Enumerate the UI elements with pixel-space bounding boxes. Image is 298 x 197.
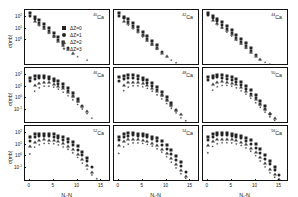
star-marker <box>47 142 50 145</box>
y-axis-tick-mark <box>24 28 26 29</box>
y-axis-tick-label: 101 <box>8 140 22 147</box>
star-marker <box>127 86 130 89</box>
triangle-marker <box>244 89 248 92</box>
circle-marker <box>225 134 228 137</box>
triangle-marker <box>122 140 126 143</box>
star-marker <box>90 174 93 177</box>
y-axis-tick-label: 101 <box>8 24 22 31</box>
y-axis-label: σ(mb) <box>7 35 13 48</box>
square-marker <box>62 26 66 30</box>
star-marker <box>141 142 144 145</box>
circle-marker <box>67 140 70 143</box>
plot-panel-52Ca: 52Ca <box>24 125 110 181</box>
y-axis-tick-mark <box>24 132 26 133</box>
star-marker <box>179 172 182 175</box>
star-marker <box>86 59 89 62</box>
circle-marker <box>160 143 163 146</box>
circle-marker <box>221 134 224 137</box>
x-axis-tick-label: 15 <box>187 183 192 188</box>
circle-marker <box>43 134 46 137</box>
x-axis-tick-mark <box>231 179 232 181</box>
panel-isotope-label: 50Ca <box>271 71 282 78</box>
triangle-marker <box>126 81 130 84</box>
x-axis-tick-mark <box>278 179 279 181</box>
triangle-marker <box>80 158 84 161</box>
x-axis-tick-mark <box>118 179 119 181</box>
star-marker <box>146 143 149 146</box>
star-marker <box>225 84 228 87</box>
triangle-marker <box>230 138 234 141</box>
triangle-marker <box>56 140 60 143</box>
x-axis-tick-mark <box>100 179 101 181</box>
star-marker <box>264 61 267 64</box>
x-axis-label: Nf-Ni <box>61 192 72 197</box>
x-axis-tick-label: 5 <box>51 183 54 188</box>
circle-marker <box>76 148 79 151</box>
plot-panel-56Ca: 56Ca <box>202 125 288 181</box>
triangle-marker <box>33 140 37 143</box>
plot-area: 42Ca <box>114 10 198 64</box>
triangle-marker <box>169 157 173 160</box>
star-marker <box>71 151 74 154</box>
triangle-marker <box>42 81 46 84</box>
star-marker <box>264 111 267 114</box>
plot-panel-40Ca: 40Ca <box>24 9 110 65</box>
x-axis-tick-label: 5 <box>140 183 143 188</box>
star-marker <box>156 93 159 96</box>
star-marker <box>221 141 224 144</box>
plot-area: 52Ca <box>25 126 109 180</box>
plot-area: 50Ca <box>203 68 287 122</box>
triangle-marker <box>220 80 224 83</box>
circle-marker <box>206 14 209 17</box>
triangle-marker <box>268 112 272 115</box>
circle-marker <box>71 144 74 147</box>
triangle-marker <box>174 108 178 111</box>
square-marker <box>165 144 168 147</box>
star-marker <box>90 117 93 120</box>
triangle-marker <box>211 140 215 143</box>
star-marker <box>81 108 84 111</box>
circle-marker <box>43 77 46 80</box>
circle-marker <box>47 135 50 138</box>
triangle-marker <box>230 81 234 84</box>
circle-marker <box>273 169 276 172</box>
triangle-marker <box>131 80 135 83</box>
circle-marker <box>170 152 173 155</box>
triangle-marker <box>160 147 164 150</box>
x-axis-tick-mark <box>53 179 54 181</box>
plot-panel-42Ca: 42Ca <box>113 9 199 65</box>
panel-isotope-label: 54Ca <box>182 129 193 136</box>
circle-marker <box>165 147 168 150</box>
triangle-marker <box>136 81 140 84</box>
x-axis-tick-label: 10 <box>252 183 257 188</box>
y-axis-tick-label: 102 <box>8 129 22 136</box>
triangle-marker <box>71 148 75 151</box>
star-marker <box>127 143 130 146</box>
y-axis-tick-label: 10-1 <box>8 106 22 113</box>
triangle-marker <box>52 139 56 142</box>
star-marker <box>175 61 178 64</box>
triangle-marker <box>169 103 173 106</box>
y-axis-tick-mark <box>24 16 26 17</box>
panel-isotope-label: 44Ca <box>271 13 282 20</box>
star-marker <box>184 177 187 180</box>
x-axis-label: Nf-Ni <box>239 192 250 197</box>
star-marker <box>122 89 125 92</box>
star-marker <box>165 155 168 158</box>
star-marker <box>225 141 228 144</box>
star-marker <box>33 146 36 149</box>
x-axis-tick-label: 10 <box>163 183 168 188</box>
triangle-marker <box>150 141 154 144</box>
star-marker <box>57 88 60 91</box>
star-marker <box>245 146 248 149</box>
star-marker <box>278 121 281 122</box>
triangle-marker <box>71 95 75 98</box>
star-marker <box>43 85 46 88</box>
triangle-marker <box>52 82 56 85</box>
x-axis-tick-label: 5 <box>229 183 232 188</box>
star-marker <box>211 145 214 148</box>
star-marker <box>206 151 209 154</box>
x-axis-tick-label: 10 <box>74 183 79 188</box>
y-axis-tick-mark <box>24 97 26 98</box>
star-marker <box>71 98 74 101</box>
